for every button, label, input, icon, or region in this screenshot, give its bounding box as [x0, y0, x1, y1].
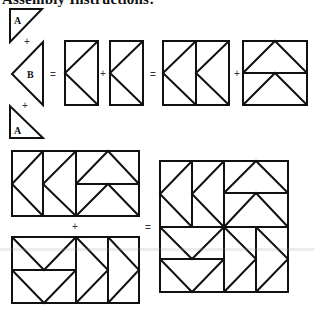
- triangle-b: B: [12, 42, 43, 105]
- triangle-a-label: A: [14, 125, 22, 136]
- plus-sign: +: [24, 36, 30, 47]
- equals-sign: =: [145, 222, 151, 233]
- triangle-a-label: A: [14, 15, 22, 26]
- plus-sign: +: [100, 68, 106, 79]
- plus-sign: +: [22, 100, 28, 111]
- equals-sign: =: [150, 69, 156, 80]
- joined-horizontal-pair: [243, 41, 307, 105]
- assembly-diagram: A + B + A = + = +: [0, 0, 314, 310]
- joined-vertical-pair: [163, 41, 229, 105]
- scan-artifact-line: [0, 248, 314, 251]
- flying-geese-unit-vertical: [110, 41, 143, 105]
- equals-sign: =: [50, 69, 56, 80]
- finished-block: [160, 161, 288, 292]
- row-one: [12, 151, 139, 216]
- plus-sign: +: [234, 68, 240, 79]
- triangle-b-label: B: [27, 69, 34, 80]
- plus-sign: +: [72, 221, 78, 232]
- flying-geese-unit-vertical: [65, 41, 98, 105]
- row-two: [12, 237, 139, 303]
